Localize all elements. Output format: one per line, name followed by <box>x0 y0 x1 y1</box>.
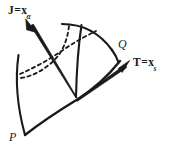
label-vector-j-subscript: α <box>27 12 31 21</box>
label-vector-j-symbol: J <box>8 4 14 16</box>
vector-arrow-J <box>26 19 78 99</box>
vector-arrow-J-shaft <box>31 24 78 98</box>
patch-right-edge-curve <box>112 50 119 63</box>
label-point-q: Q <box>118 38 127 50</box>
label-vector-t-symbol: T <box>133 56 141 68</box>
patch-left-edge-curve <box>17 55 25 135</box>
label-vector-t: T=xs <box>133 57 157 71</box>
vector-arrow-T <box>77 61 130 102</box>
vector-arrow-T-shaft <box>77 65 127 102</box>
label-vector-j: J=xα <box>8 5 31 19</box>
label-vector-t-subscript: s <box>153 64 156 73</box>
figure-container: J=xα T=xs Q P <box>0 0 170 152</box>
interior-coordinate-curve <box>76 25 82 97</box>
diagram-canvas <box>0 0 170 152</box>
label-point-p: P <box>9 131 16 143</box>
